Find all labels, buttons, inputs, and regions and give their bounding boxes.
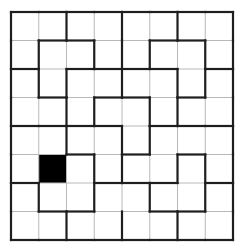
grid-cell[interactable]: [94, 12, 122, 41]
grid-cell[interactable]: [122, 183, 150, 212]
grid-cell[interactable]: [67, 155, 95, 184]
grid-cell[interactable]: [122, 41, 150, 70]
grid-cell[interactable]: [67, 69, 95, 98]
grid-cell-filled[interactable]: [39, 155, 67, 184]
grid-cell[interactable]: [178, 98, 206, 127]
grid-cell[interactable]: [94, 41, 122, 70]
grid-cell[interactable]: [205, 69, 233, 98]
grid-cell[interactable]: [205, 12, 233, 41]
grid-cell[interactable]: [67, 41, 95, 70]
grid-cell[interactable]: [39, 126, 67, 155]
grid-cell[interactable]: [11, 12, 39, 41]
grid-cell[interactable]: [39, 98, 67, 127]
grid-cell[interactable]: [67, 212, 95, 241]
grid-cell[interactable]: [39, 41, 67, 70]
grid-cell[interactable]: [94, 69, 122, 98]
grid-cell[interactable]: [67, 126, 95, 155]
grid-cell[interactable]: [205, 212, 233, 241]
grid-cell[interactable]: [94, 98, 122, 127]
grid-cell[interactable]: [11, 155, 39, 184]
grid-cell[interactable]: [150, 69, 178, 98]
grid-cell[interactable]: [205, 126, 233, 155]
grid-cell[interactable]: [39, 212, 67, 241]
grid-cell[interactable]: [178, 183, 206, 212]
grid-cell[interactable]: [122, 155, 150, 184]
grid-cell[interactable]: [67, 98, 95, 127]
grid-cell[interactable]: [11, 126, 39, 155]
grid-cell[interactable]: [178, 212, 206, 241]
grid-cell[interactable]: [94, 183, 122, 212]
grid-cell[interactable]: [178, 126, 206, 155]
grid-cell[interactable]: [94, 212, 122, 241]
grid-cell[interactable]: [205, 98, 233, 127]
grid-cell[interactable]: [150, 98, 178, 127]
grid-cell[interactable]: [39, 69, 67, 98]
grid-cell[interactable]: [205, 41, 233, 70]
grid-cell[interactable]: [178, 12, 206, 41]
grid-cell[interactable]: [122, 126, 150, 155]
grid-cell[interactable]: [150, 212, 178, 241]
grid-cell[interactable]: [122, 212, 150, 241]
grid-cell[interactable]: [178, 41, 206, 70]
grid-cell[interactable]: [94, 155, 122, 184]
grid-cell[interactable]: [11, 98, 39, 127]
grid-cell[interactable]: [67, 12, 95, 41]
grid-cell[interactable]: [122, 69, 150, 98]
grid-cell[interactable]: [150, 155, 178, 184]
grid-cell[interactable]: [67, 183, 95, 212]
grid-cell[interactable]: [11, 41, 39, 70]
grid-cell[interactable]: [150, 12, 178, 41]
grid-cell[interactable]: [205, 155, 233, 184]
grid-cell[interactable]: [39, 12, 67, 41]
grid-cell[interactable]: [178, 69, 206, 98]
grid-cell[interactable]: [178, 155, 206, 184]
grid-cell[interactable]: [122, 98, 150, 127]
grid-cell[interactable]: [11, 69, 39, 98]
grid-cell[interactable]: [150, 183, 178, 212]
grid-cell[interactable]: [94, 126, 122, 155]
grid-cell[interactable]: [122, 12, 150, 41]
grid-cell[interactable]: [205, 183, 233, 212]
grid-cell[interactable]: [39, 183, 67, 212]
grid-cell[interactable]: [11, 183, 39, 212]
grid-cell[interactable]: [11, 212, 39, 241]
puzzle-board[interactable]: [0, 0, 245, 252]
grid-cell[interactable]: [150, 126, 178, 155]
grid-cell[interactable]: [150, 41, 178, 70]
